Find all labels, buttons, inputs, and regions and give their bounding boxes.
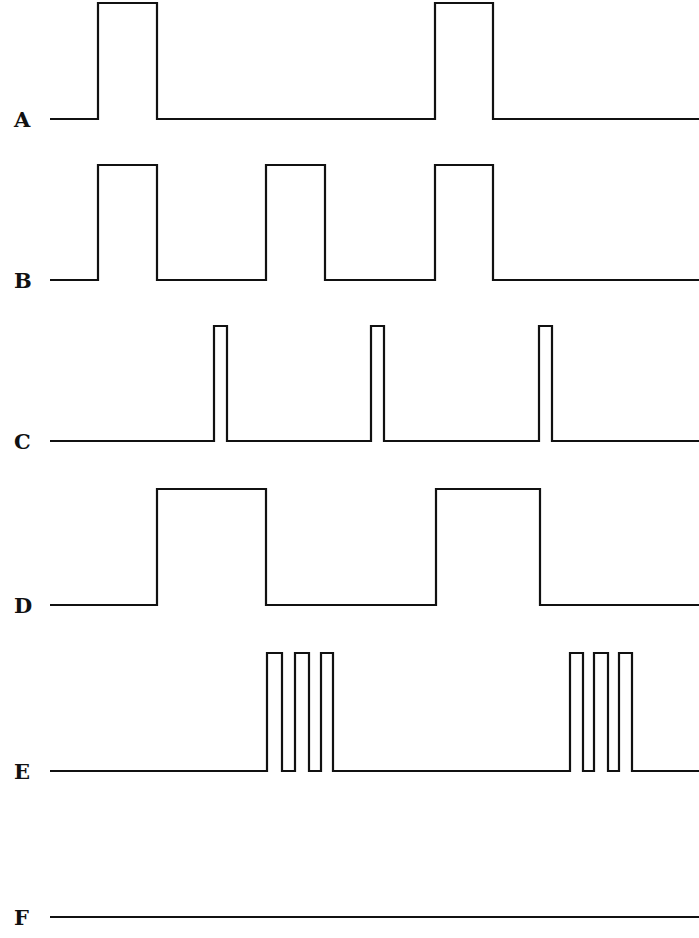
signal-label-c: C bbox=[14, 429, 31, 454]
waveform-a bbox=[50, 3, 699, 119]
signal-label-d: D bbox=[14, 593, 32, 618]
signal-f: F bbox=[14, 905, 699, 930]
signal-b: B bbox=[14, 165, 699, 293]
timing-diagram: A B C D E F bbox=[0, 0, 699, 938]
signal-a: A bbox=[13, 3, 699, 132]
signal-d: D bbox=[14, 489, 699, 618]
waveform-b bbox=[50, 165, 699, 280]
signal-label-e: E bbox=[14, 759, 30, 784]
waveform-c bbox=[50, 326, 699, 441]
signal-label-f: F bbox=[14, 905, 29, 930]
waveform-d bbox=[50, 489, 699, 605]
signal-c: C bbox=[14, 326, 699, 454]
signal-label-a: A bbox=[13, 107, 31, 132]
signal-label-b: B bbox=[14, 268, 32, 293]
waveform-e bbox=[50, 653, 699, 771]
signal-e: E bbox=[14, 653, 699, 784]
